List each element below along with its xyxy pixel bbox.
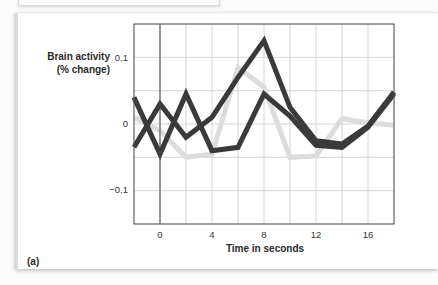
x-axis-label: Time in seconds <box>200 243 330 254</box>
y-axis-label-line2: (% change) <box>30 63 110 76</box>
panel-label: (a) <box>27 256 39 267</box>
x-tick-label: 16 <box>353 229 383 240</box>
x-tick-label: 12 <box>301 229 331 240</box>
y-tick-label: 0.1 <box>98 52 128 63</box>
x-tick-label: 0 <box>145 229 175 240</box>
x-tick-label: 8 <box>249 229 279 240</box>
x-tick-label: 4 <box>197 229 227 240</box>
y-tick-label: 0 <box>98 118 128 129</box>
y-tick-label: −0.1 <box>98 184 128 195</box>
